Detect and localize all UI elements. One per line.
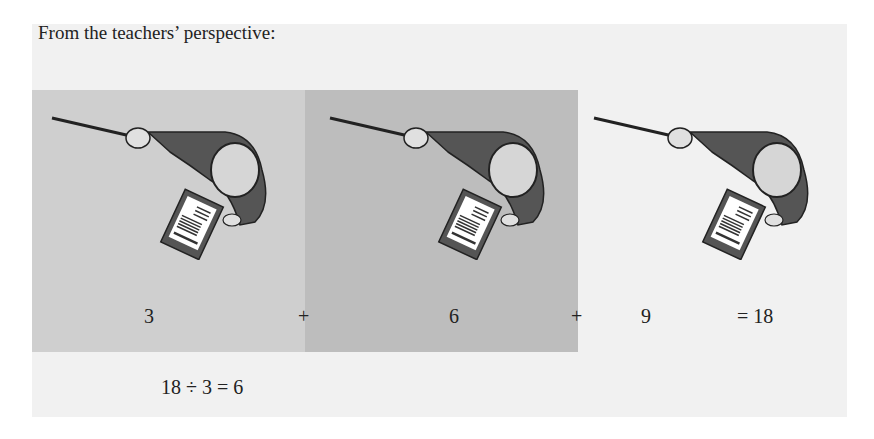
sum-result: = 18 (737, 305, 773, 328)
division-equation: 18 ÷ 3 = 6 (161, 376, 243, 399)
plus-operator-2: + (571, 305, 582, 328)
plus-operator-1: + (298, 305, 309, 328)
teacher-figure-2-icon (328, 110, 558, 260)
teacher-figure-1-icon (50, 110, 280, 260)
panel-1-value: 3 (144, 305, 154, 328)
panel-3-value: 9 (641, 305, 651, 328)
panel-2-value: 6 (449, 305, 459, 328)
teacher-figure-3-icon (592, 110, 822, 260)
diagram-heading: From the teachers’ perspective: (38, 22, 276, 44)
